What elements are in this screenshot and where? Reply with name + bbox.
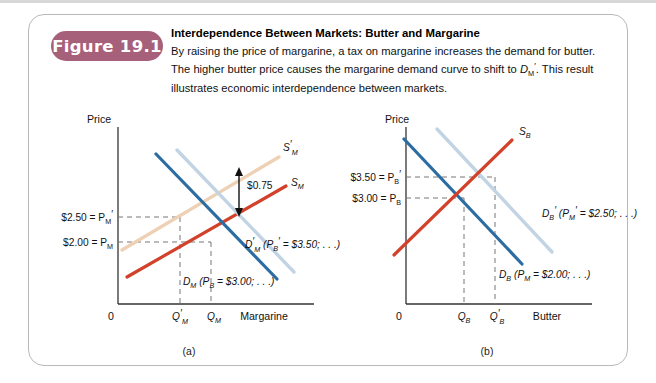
panel-b-quantity-tick-qb-prime: Q′B: [490, 308, 505, 326]
label-demand-butter: DB (PM = $2.00; . . .): [499, 269, 591, 283]
figure-header: Interdependence Between Markets: Butter …: [171, 25, 601, 97]
caption-line-2-post: .: [536, 63, 539, 75]
caption-line-1: By raising the price of margarine, a tax…: [171, 45, 561, 57]
tax-wedge-arrow: [235, 167, 243, 217]
figure-title: Interdependence Between Markets: Butter …: [171, 25, 601, 42]
figure-caption: By raising the price of margarine, a tax…: [171, 43, 601, 97]
panel-b-sub-caption: (b): [347, 345, 627, 357]
panel-b-quantity-tick-qb: QB: [458, 311, 471, 325]
panel-b-price-tick-300: $3.00 = PB: [352, 193, 401, 207]
label-demand-margarine-shifted: D′M (PB′ = $3.50; . . .): [245, 236, 340, 254]
curve-demand-margarine-shifted: [177, 150, 294, 272]
panel-b-origin-label: 0: [396, 310, 402, 322]
panel-a-origin-label: 0: [108, 310, 114, 322]
label-supply-margarine-shifted: S′M: [283, 139, 298, 157]
figure-number-label: Figure 19.1: [52, 37, 162, 56]
page-top-rule: [0, 0, 656, 3]
label-demand-margarine: DM (PB = $3.00; . . .): [183, 276, 275, 290]
panel-b-y-axis-label: Price: [385, 113, 409, 125]
panel-a-price-tick-250: $2.50 = PM′: [61, 209, 113, 226]
label-supply-margarine: SM: [291, 177, 304, 191]
panel-a-x-axis-label: Margarine: [240, 310, 288, 322]
panel-a-sub-caption: (a): [29, 345, 349, 357]
label-supply-butter: SB: [519, 126, 531, 140]
panel-b-price-tick-350: $3.50 = PB′: [350, 169, 401, 186]
figure-card: Figure 19.1 Interdependence Between Mark…: [28, 14, 628, 366]
chart-margarine: Price $0.75 S′M S: [49, 107, 349, 339]
panel-margarine: Price $0.75 S′M S: [49, 107, 349, 339]
chart-butter: Price SB DB′ (PM′ = $2.50; . . .) DB (PM…: [347, 107, 627, 339]
tax-wedge-label: $0.75: [247, 180, 273, 191]
caption-var-d: D: [520, 63, 528, 75]
panel-a-price-tick-200: $2.00 = PM: [63, 237, 113, 251]
panel-butter: Price SB DB′ (PM′ = $2.50; . . .) DB (PM…: [347, 107, 627, 339]
label-demand-butter-shifted: DB′ (PM′ = $2.50; . . .): [542, 205, 637, 222]
panel-b-x-axis-label: Butter: [533, 310, 562, 322]
figure-number-badge: Figure 19.1: [51, 31, 163, 61]
curve-supply-butter: [394, 140, 512, 255]
panel-a-y-axis-label: Price: [87, 113, 111, 125]
panel-a-quantity-tick-qm: QM: [207, 311, 221, 325]
panel-a-quantity-tick-qm-prime: Q′M: [172, 308, 188, 326]
